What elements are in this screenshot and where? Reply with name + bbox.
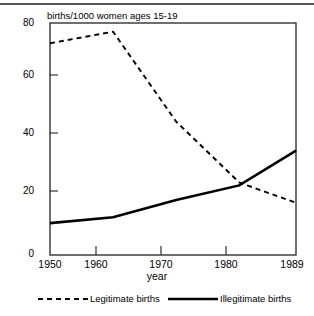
legend-label-legitimate: Legitimate births [90, 294, 160, 304]
y-axis-ticks [50, 75, 58, 191]
legend-entry-illegitimate: Illegitimate births [168, 292, 291, 306]
chart-figure: births/1000 women ages 15-19 80 60 40 20… [0, 0, 314, 316]
x-axis-ticks [96, 246, 226, 255]
plot-area [0, 0, 314, 316]
chart-legend: Legitimate births Illegitimate births [0, 292, 314, 308]
solid-line-icon [168, 294, 218, 304]
legend-label-illegitimate: Illegitimate births [220, 294, 291, 304]
dashed-line-icon [38, 294, 88, 304]
legend-entry-legitimate: Legitimate births [38, 292, 160, 306]
series-line-illegitimate-births [50, 151, 296, 224]
series-line-legitimate-births [50, 32, 296, 203]
